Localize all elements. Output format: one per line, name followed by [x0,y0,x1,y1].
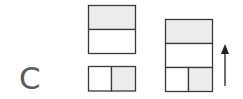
cell-empty [166,68,189,92]
top-left-block [89,6,136,54]
combined-block [166,20,213,92]
cell-shaded [89,6,136,30]
bottom-left-block [89,67,136,92]
cell-empty [89,67,112,92]
cell-shaded [189,68,213,92]
diagram-canvas [0,0,243,99]
cell-empty [89,30,136,54]
cell-shaded [166,20,213,44]
cell-shaded [112,67,136,92]
cell-empty [166,44,213,68]
up-arrow-icon [221,44,229,86]
